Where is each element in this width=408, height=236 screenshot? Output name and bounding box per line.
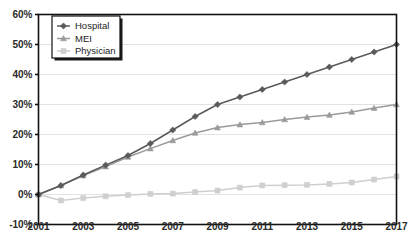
data-point-marker: [304, 71, 310, 77]
data-point-marker: [193, 190, 198, 195]
legend-item-label: MEI: [75, 33, 92, 44]
data-point-marker: [214, 101, 220, 107]
y-tick-label: 10%: [12, 159, 32, 170]
x-tick-label: 2005: [117, 221, 140, 232]
series-group: [35, 41, 399, 203]
x-tick-label: 2003: [72, 221, 95, 232]
x-tick-label: 2015: [341, 221, 364, 232]
y-tick-label: 60%: [12, 9, 32, 20]
data-point-marker: [305, 182, 310, 187]
data-point-marker: [237, 185, 242, 190]
data-point-marker: [126, 193, 131, 198]
series-line: [39, 105, 397, 195]
y-tick-label: 0%: [18, 189, 33, 200]
data-point-marker: [58, 198, 63, 203]
data-point-marker: [81, 196, 86, 201]
y-tick-label: 40%: [12, 69, 32, 80]
legend-swatch-marker: [61, 49, 66, 54]
data-point-marker: [259, 86, 265, 92]
data-point-marker: [326, 64, 332, 70]
x-tick-label: 2007: [162, 221, 185, 232]
y-tick-label: 30%: [12, 99, 32, 110]
x-tick-label: 2017: [385, 221, 408, 232]
data-point-marker: [282, 183, 287, 188]
data-point-marker: [237, 94, 243, 100]
chart-legend: HospitalMEIPhysician: [52, 16, 123, 61]
line-chart: -10%0%10%20%30%40%50%60% 200120032005200…: [0, 0, 408, 236]
x-tick-label: 2001: [27, 221, 50, 232]
chart-container: -10%0%10%20%30%40%50%60% 200120032005200…: [0, 0, 408, 236]
data-point-marker: [148, 191, 153, 196]
series-hospital: [35, 41, 399, 197]
legend-item-label: Physician: [75, 45, 116, 56]
data-point-marker: [327, 182, 332, 187]
data-point-marker: [371, 49, 377, 55]
series-physician: [36, 174, 399, 203]
y-axis-ticks: -10%0%10%20%30%40%50%60%: [9, 9, 38, 230]
y-tick-label: 20%: [12, 129, 32, 140]
data-point-marker: [372, 177, 377, 182]
x-tick-label: 2013: [296, 221, 319, 232]
data-point-marker: [103, 194, 108, 199]
data-point-marker: [170, 191, 175, 196]
data-point-marker: [349, 56, 355, 62]
data-point-marker: [282, 79, 288, 85]
data-point-marker: [260, 183, 265, 188]
x-axis-ticks: 200120032005200720092011201320152017: [27, 221, 408, 232]
data-point-marker: [349, 180, 354, 185]
x-tick-label: 2009: [206, 221, 229, 232]
legend-item-label: Hospital: [75, 20, 109, 31]
x-tick-label: 2011: [251, 221, 273, 232]
data-point-marker: [215, 188, 220, 193]
y-tick-label: 50%: [12, 39, 32, 50]
